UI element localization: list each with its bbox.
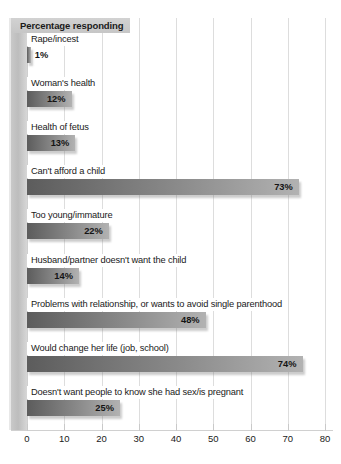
bar-group: Problems with relationship, or wants to … [0,298,341,342]
bar-value-label: 22% [84,223,103,239]
category-label: Can't afford a child [27,165,110,178]
bar-chart-figure: Percentage responding Rape/incest1%Woman… [0,0,341,464]
category-label: Husband/partner doesn't want the child [27,254,191,267]
x-tick-label-50: 50 [208,433,219,444]
bar-group: Would change her life (job, school)74% [0,342,341,386]
bar-series: Rape/incest1%Woman's health12%Health of … [0,33,341,430]
bar-wrapper [27,356,303,372]
category-label: Woman's health [27,77,100,90]
x-tick-label-70: 70 [282,433,293,444]
figure-caption [10,452,335,463]
bar [27,47,31,63]
x-tick-label-0: 0 [24,433,29,444]
bar-value-label: 73% [274,179,293,195]
x-tick-label-30: 30 [133,433,144,444]
bar [27,356,303,372]
bar-group: Can't afford a child73% [0,165,341,209]
bar-group: Doesn't want people to know she had sex/… [0,386,341,430]
bar-wrapper [27,47,31,63]
bar-value-label: 12% [47,91,66,107]
bar [27,179,299,195]
x-tick-label-10: 10 [59,433,70,444]
bar [27,312,206,328]
bar-group: Health of fetus13% [0,121,341,165]
bar-value-label: 13% [51,135,70,151]
x-tick-label-40: 40 [171,433,182,444]
bar-value-label: 48% [181,312,200,328]
x-axis-line [11,430,333,431]
bar-group: Too young/immature22% [0,209,341,253]
bar-value-label: 74% [278,356,297,372]
chart-title-text: Percentage responding [20,20,123,31]
category-label: Problems with relationship, or wants to … [27,298,287,311]
category-label: Rape/incest [27,33,83,46]
bar-wrapper [27,179,299,195]
chart-title-banner: Percentage responding [11,18,130,33]
bar-wrapper [27,312,206,328]
bar-group: Rape/incest1% [0,33,341,77]
category-label: Would change her life (job, school) [27,342,174,355]
bar-group: Woman's health12% [0,77,341,121]
category-label: Health of fetus [27,121,94,134]
x-tick-label-80: 80 [320,433,331,444]
x-tick-label-60: 60 [245,433,256,444]
bar-value-label: 14% [54,268,73,284]
category-label: Too young/immature [27,209,118,222]
bar-group: Husband/partner doesn't want the child14… [0,254,341,298]
bar-value-label: 25% [95,400,114,416]
x-tick-label-20: 20 [96,433,107,444]
bar-value-label: 1% [35,47,48,63]
category-label: Doesn't want people to know she had sex/… [27,386,248,399]
